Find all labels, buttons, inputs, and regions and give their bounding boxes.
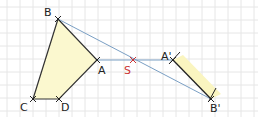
diagram-canvas: B A C D S A' B' xyxy=(0,0,258,117)
label-a-prime: A' xyxy=(161,50,172,63)
label-s: S xyxy=(124,64,131,77)
label-d: D xyxy=(61,101,69,114)
label-b: B xyxy=(44,6,52,19)
label-a: A xyxy=(98,64,106,77)
label-c: C xyxy=(20,101,28,114)
label-b-prime: B' xyxy=(210,102,221,115)
